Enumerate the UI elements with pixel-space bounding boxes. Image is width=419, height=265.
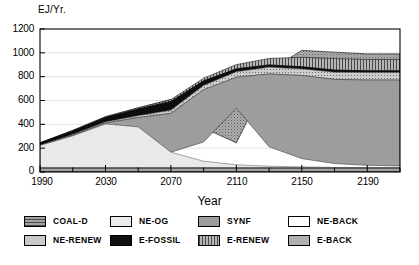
legend-swatch-synf-icon	[198, 216, 220, 227]
legend-swatch-coal-d-icon	[24, 216, 46, 227]
figure-container: EJ/Yr.	[0, 0, 419, 265]
chart-legend: COAL-D NE-OG SYNF NE-BACK NE-RENEW E-FOS…	[24, 213, 400, 248]
legend-swatch-ne-back-icon	[288, 216, 310, 227]
y-tick-label-1200: 1200	[0, 23, 34, 34]
legend-label-ne-og: NE-OG	[139, 216, 168, 226]
legend-item-ne-back[interactable]: NE-BACK	[288, 216, 388, 227]
legend-label-synf: SYNF	[227, 216, 251, 226]
x-tick-label-2110: 2110	[217, 176, 257, 187]
legend-swatch-e-back-icon	[288, 235, 310, 246]
legend-label-coal-d: COAL-D	[53, 216, 88, 226]
y-tick-label-400: 400	[0, 118, 34, 129]
legend-label-e-back: E-BACK	[317, 235, 352, 245]
y-tick-label-800: 800	[0, 70, 34, 81]
y-tick-label-200: 200	[0, 142, 34, 153]
legend-item-e-renew[interactable]: E-RENEW	[198, 235, 288, 246]
legend-label-e-renew: E-RENEW	[227, 235, 269, 245]
legend-item-e-back[interactable]: E-BACK	[288, 235, 388, 246]
x-tick-label-2150: 2150	[282, 176, 322, 187]
legend-label-ne-renew: NE-RENEW	[53, 235, 102, 245]
area-coal-d	[40, 168, 400, 172]
x-tick-label-2190: 2190	[348, 176, 388, 187]
legend-item-coal-d[interactable]: COAL-D	[24, 216, 110, 227]
legend-item-ne-renew[interactable]: NE-RENEW	[24, 235, 110, 246]
x-tick-label-1990: 1990	[22, 176, 62, 187]
legend-swatch-ne-renew-icon	[24, 235, 46, 246]
legend-swatch-e-renew-icon	[198, 235, 220, 246]
legend-swatch-e-fossil-icon	[110, 235, 132, 246]
x-tick-label-2030: 2030	[86, 176, 126, 187]
legend-item-synf[interactable]: SYNF	[198, 216, 288, 227]
legend-swatch-ne-og-icon	[110, 216, 132, 227]
y-tick-label-600: 600	[0, 94, 34, 105]
x-tick-label-2070: 2070	[151, 176, 191, 187]
legend-label-e-fossil: E-FOSSIL	[139, 235, 181, 245]
y-tick-label-0: 0	[0, 165, 34, 176]
legend-label-ne-back: NE-BACK	[317, 216, 358, 226]
legend-item-ne-og[interactable]: NE-OG	[110, 216, 198, 227]
y-tick-label-1000: 1000	[0, 47, 34, 58]
x-axis-title: Year	[0, 194, 419, 208]
legend-item-e-fossil[interactable]: E-FOSSIL	[110, 235, 198, 246]
